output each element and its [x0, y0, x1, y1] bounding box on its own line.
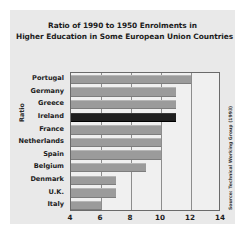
x-tick-label: 12 — [180, 213, 200, 222]
bar — [71, 176, 116, 185]
bar — [71, 150, 161, 159]
bar-row — [71, 174, 219, 187]
category-label: Spain — [43, 148, 64, 161]
plot-area — [70, 72, 220, 211]
chart-title-line-2: Higher Education in Some European Union … — [16, 32, 229, 43]
category-label: Portugal — [32, 72, 64, 85]
chart-title: Ratio of 1990 to 1950 Enrolments in High… — [16, 21, 229, 42]
category-label: U.K. — [49, 186, 64, 199]
value-axis-labels: 468101214 — [70, 213, 220, 225]
category-axis-labels: PortugalGermanyGreeceIrelandFranceNether… — [10, 72, 67, 211]
bar — [71, 100, 176, 109]
category-label: Greece — [38, 97, 64, 110]
bar-row — [71, 149, 219, 162]
bar-row — [71, 124, 219, 137]
bar-row — [71, 86, 219, 99]
x-tick-label: 8 — [120, 213, 140, 222]
bar — [71, 201, 101, 210]
x-tick-label: 6 — [90, 213, 110, 222]
category-label: Denmark — [30, 173, 64, 186]
x-tick-label: 14 — [210, 213, 230, 222]
category-label: Italy — [47, 198, 64, 211]
x-tick-label: 10 — [150, 213, 170, 222]
chart-figure: Ratio of 1990 to 1950 Enrolments in High… — [10, 10, 235, 224]
bar — [71, 188, 116, 197]
bar-row — [71, 98, 219, 111]
chart-title-line-1: Ratio of 1990 to 1950 Enrolments in — [16, 21, 229, 32]
bar-row — [71, 111, 219, 124]
bar — [71, 163, 146, 172]
bar-row — [71, 161, 219, 174]
bar-row — [71, 136, 219, 149]
bar-row — [71, 199, 219, 212]
category-label: Belgium — [34, 160, 64, 173]
category-label: Netherlands — [18, 135, 64, 148]
bar-series — [71, 73, 219, 210]
category-label: Ireland — [38, 110, 64, 123]
bar — [71, 75, 191, 84]
bar — [71, 87, 176, 96]
category-label: Germany — [31, 85, 64, 98]
category-label: France — [39, 123, 64, 136]
bar-row — [71, 73, 219, 86]
source-annotation: Source: Technical Working Group (1993) — [228, 106, 233, 210]
bar — [71, 125, 161, 134]
x-tick-label: 4 — [60, 213, 80, 222]
bar — [71, 113, 176, 122]
bar-row — [71, 187, 219, 200]
bar — [71, 138, 161, 147]
